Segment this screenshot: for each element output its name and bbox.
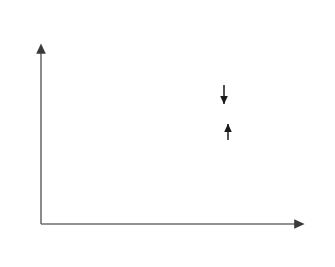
plot-area xyxy=(0,0,335,267)
chart-container xyxy=(0,0,335,267)
